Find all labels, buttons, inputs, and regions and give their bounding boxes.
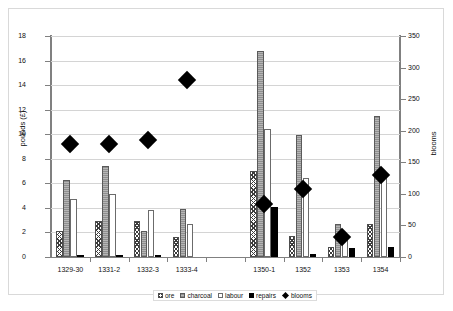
bar-ore bbox=[367, 224, 373, 257]
legend-item-label: labour bbox=[225, 292, 243, 300]
y-axis-right-tick bbox=[401, 68, 406, 69]
x-axis-category-label: 1354 bbox=[358, 265, 404, 274]
y-axis-left-tick bbox=[45, 208, 50, 209]
y-axis-right-tick bbox=[401, 194, 406, 195]
y-axis-left-tick-label: 18 bbox=[6, 32, 26, 40]
charcoal-hatch-swatch bbox=[180, 293, 185, 298]
bar-ore bbox=[289, 236, 295, 257]
gridline bbox=[51, 85, 400, 86]
y-axis-left-tick-label: 6 bbox=[6, 179, 26, 187]
y-axis-right-tick-label: 300 bbox=[408, 64, 430, 72]
blooms-diamond-swatch bbox=[282, 292, 289, 299]
plot-area bbox=[51, 36, 400, 257]
y-axis-right-tick bbox=[401, 99, 406, 100]
bar-ore bbox=[95, 221, 101, 257]
x-axis-tick bbox=[245, 258, 246, 262]
y-axis-right-tick-label: 150 bbox=[408, 158, 430, 166]
y-axis-left-tick-label: 12 bbox=[6, 106, 26, 114]
bar-repairs bbox=[77, 255, 83, 257]
bar-ore bbox=[56, 231, 62, 257]
y-axis-right-tick-label: 100 bbox=[408, 190, 430, 198]
bar-repairs bbox=[155, 255, 161, 257]
legend-item-label: repairs bbox=[256, 292, 276, 300]
y-axis-right-tick bbox=[401, 36, 406, 37]
y-axis-left-tick-label: 4 bbox=[6, 204, 26, 212]
y-axis-right-tick-label: 250 bbox=[408, 95, 430, 103]
y-axis-left-tick-label: 14 bbox=[6, 81, 26, 89]
bar-ore bbox=[328, 247, 334, 257]
y-axis-left-tick bbox=[45, 257, 50, 258]
bar-charcoal bbox=[63, 180, 69, 257]
bar-charcoal bbox=[141, 231, 147, 257]
bar-labour bbox=[148, 210, 154, 257]
y-axis-left-tick-label: 0 bbox=[6, 253, 26, 261]
bar-ore bbox=[134, 221, 140, 257]
blooms-marker bbox=[178, 71, 196, 89]
bar-repairs bbox=[388, 247, 394, 257]
y-axis-left-tick-label: 2 bbox=[6, 228, 26, 236]
legend-item-repairs[interactable]: repairs bbox=[249, 292, 276, 300]
y-axis-left-tick-label: 10 bbox=[6, 130, 26, 138]
bar-repairs bbox=[310, 254, 316, 257]
y-axis-left-tick bbox=[45, 61, 50, 62]
bar-charcoal bbox=[257, 51, 263, 257]
gridline bbox=[51, 159, 400, 160]
labour-white-swatch bbox=[218, 293, 223, 298]
repairs-black-swatch bbox=[249, 293, 254, 298]
x-axis-category-label: 1333-4 bbox=[164, 265, 210, 274]
bar-labour bbox=[70, 199, 76, 257]
y-axis-left-tick bbox=[45, 183, 50, 184]
bar-labour bbox=[187, 224, 193, 257]
legend-item-label: charcoal bbox=[187, 292, 212, 300]
bar-repairs bbox=[349, 248, 355, 257]
x-axis-tick bbox=[90, 258, 91, 262]
y-axis-right-tick-label: 200 bbox=[408, 127, 430, 135]
legend-item-blooms[interactable]: blooms bbox=[282, 292, 312, 300]
legend-item-charcoal[interactable]: charcoal bbox=[180, 292, 212, 300]
legend-item-labour[interactable]: labour bbox=[218, 292, 243, 300]
gridline bbox=[51, 61, 400, 62]
legend-item-label: blooms bbox=[291, 292, 312, 300]
y-axis-right-tick-label: 350 bbox=[408, 32, 430, 40]
bar-charcoal bbox=[374, 116, 380, 257]
bar-ore bbox=[250, 171, 256, 257]
ore-hatch-swatch bbox=[158, 293, 163, 298]
bar-labour bbox=[264, 129, 270, 257]
chart-frame: pounds (£) blooms 024681012141618 050100… bbox=[8, 8, 444, 295]
y-axis-left-tick-label: 16 bbox=[6, 57, 26, 65]
legend-item-ore[interactable]: ore bbox=[158, 292, 174, 300]
gridline bbox=[51, 36, 400, 37]
y-axis-left-tick bbox=[45, 134, 50, 135]
chart-legend: orecharcoallabourrepairsblooms bbox=[153, 290, 317, 301]
y-axis-right-tick bbox=[401, 162, 406, 163]
bar-charcoal bbox=[102, 166, 108, 257]
y-axis-left-tick bbox=[45, 159, 50, 160]
y-axis-left-tick bbox=[45, 36, 50, 37]
legend-item-label: ore bbox=[165, 292, 174, 300]
bar-repairs bbox=[116, 255, 122, 257]
x-axis-tick bbox=[400, 258, 401, 262]
bar-labour bbox=[381, 178, 387, 257]
bar-charcoal bbox=[180, 209, 186, 257]
y-axis-right-tick bbox=[401, 257, 406, 258]
gridline bbox=[51, 134, 400, 135]
x-axis-tick bbox=[361, 258, 362, 262]
y-axis-right-tick-label: 0 bbox=[408, 253, 430, 261]
x-axis-tick bbox=[322, 258, 323, 262]
y-axis-left-tick bbox=[45, 232, 50, 233]
bar-labour bbox=[109, 194, 115, 257]
blooms-marker bbox=[61, 134, 79, 152]
bar-repairs bbox=[271, 207, 277, 257]
y-axis-right-tick-label: 50 bbox=[408, 221, 430, 229]
x-axis-tick bbox=[206, 258, 207, 262]
x-axis-tick bbox=[167, 258, 168, 262]
y-axis-left-tick-label: 8 bbox=[6, 155, 26, 163]
bar-ore bbox=[173, 237, 179, 257]
x-axis-tick bbox=[284, 258, 285, 262]
x-axis-line bbox=[50, 257, 401, 258]
y-axis-right-tick bbox=[401, 131, 406, 132]
x-axis-tick bbox=[129, 258, 130, 262]
gridline bbox=[51, 110, 400, 111]
blooms-marker bbox=[100, 135, 118, 153]
y-axis-left-tick bbox=[45, 85, 50, 86]
